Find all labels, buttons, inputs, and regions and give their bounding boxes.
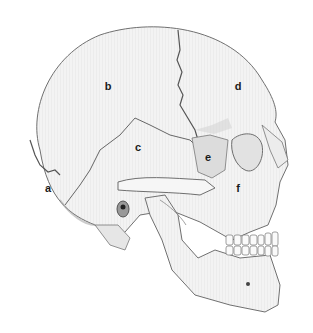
mental-foramen — [246, 282, 250, 286]
label-e: e — [205, 151, 211, 163]
label-d: d — [235, 80, 242, 92]
label-c: c — [135, 141, 141, 153]
label-a: a — [45, 182, 51, 194]
skull-illustration — [0, 0, 313, 333]
label-f: f — [236, 182, 240, 194]
label-b: b — [105, 80, 112, 92]
